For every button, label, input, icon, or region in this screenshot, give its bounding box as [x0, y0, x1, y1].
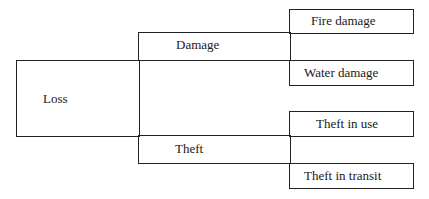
theft-in-transit-label: Theft in transit [304, 169, 381, 182]
loss-label: Loss [43, 92, 68, 105]
theft-node [138, 135, 291, 164]
fire-damage-label: Fire damage [311, 14, 376, 27]
loss-node [16, 60, 140, 137]
damage-label: Damage [176, 38, 219, 51]
water-damage-label: Water damage [304, 66, 378, 79]
theft-in-use-label: Theft in use [316, 117, 378, 130]
theft-label: Theft [175, 142, 203, 155]
